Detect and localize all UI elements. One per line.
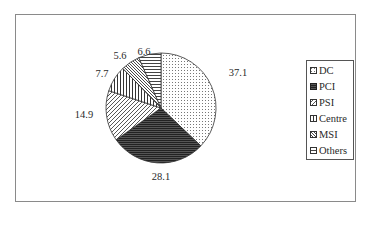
pie-slices: [106, 53, 216, 163]
legend-item-centre: Centre: [310, 111, 347, 125]
legend-label: PCI: [319, 81, 335, 92]
slice-label-others: 6.6: [137, 46, 150, 57]
legend-item-others: Others: [310, 143, 347, 157]
legend-label: Others: [319, 145, 347, 156]
legend-label: MSI: [319, 129, 338, 140]
dark-horizontal-pattern-swatch-icon: [310, 83, 317, 90]
slice-label-psi: 14.9: [75, 109, 93, 120]
legend-item-pci: PCI: [310, 79, 335, 93]
slice-label-msi: 5.6: [113, 50, 126, 61]
slice-label-pci: 28.1: [152, 171, 170, 182]
legend-label: Centre: [319, 113, 347, 124]
reverse-diagonal-pattern-swatch-icon: [310, 131, 317, 138]
vertical-pattern-swatch-icon: [310, 115, 317, 122]
legend: DC PCI PSI Centre MSI Others: [306, 60, 354, 160]
legend-item-psi: PSI: [310, 95, 334, 109]
slice-label-centre: 7.7: [95, 68, 108, 79]
slice-label-dc: 37.1: [229, 67, 247, 78]
dots-pattern-swatch-icon: [310, 67, 317, 74]
diagonal-pattern-swatch-icon: [310, 99, 317, 106]
legend-item-msi: MSI: [310, 127, 338, 141]
legend-item-dc: DC: [310, 63, 334, 77]
horizontal-pattern-swatch-icon: [310, 147, 317, 154]
legend-label: DC: [319, 65, 334, 76]
legend-label: PSI: [319, 97, 334, 108]
